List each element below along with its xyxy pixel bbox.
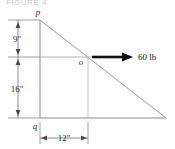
point-label-q: q bbox=[33, 121, 38, 131]
dim-arrow-9in-down bbox=[16, 22, 21, 28]
point-label-o: o bbox=[79, 57, 84, 67]
force-arrow-head bbox=[122, 52, 133, 61]
diagram-canvas: p o q 9" 16" 12" 60 lb bbox=[0, 0, 175, 149]
force-label-60lb: 60 lb bbox=[138, 52, 157, 62]
dimension-label-12in: 12" bbox=[58, 133, 71, 143]
triangle-hypotenuse bbox=[40, 20, 166, 118]
figure-container: FIGURE 4 bbox=[0, 0, 175, 149]
dimension-label-16in: 16" bbox=[11, 84, 24, 94]
point-label-p: p bbox=[35, 7, 41, 17]
dim-arrow-16in-up bbox=[16, 110, 21, 116]
dim-arrow-9in-up bbox=[16, 49, 21, 55]
dimension-label-9in: 9" bbox=[13, 34, 22, 44]
dim-arrow-12in-left bbox=[41, 136, 47, 141]
dim-arrow-12in-right bbox=[81, 136, 87, 141]
dim-arrow-16in-down bbox=[16, 59, 21, 65]
